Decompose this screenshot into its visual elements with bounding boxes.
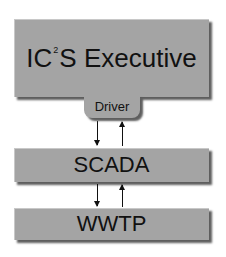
scada-block: SCADA bbox=[14, 148, 209, 182]
arrow-up-icon bbox=[122, 185, 123, 207]
arrow-down-icon bbox=[97, 184, 98, 206]
scada-label: SCADA bbox=[74, 152, 150, 178]
arrow-down-icon bbox=[97, 121, 98, 145]
driver-block: Driver bbox=[84, 95, 140, 118]
wwtp-block: WWTP bbox=[14, 208, 209, 240]
driver-label: Driver bbox=[95, 99, 130, 114]
arrow-up-icon bbox=[122, 122, 123, 146]
executive-label: IC2S Executive bbox=[26, 43, 196, 74]
wwtp-label: WWTP bbox=[77, 211, 147, 237]
executive-block: IC2S Executive bbox=[14, 19, 209, 97]
